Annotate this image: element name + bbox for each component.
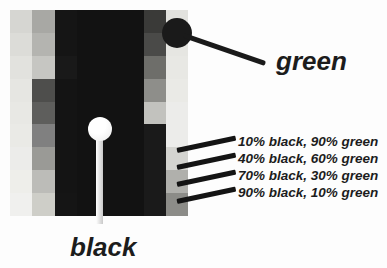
pixel-cell xyxy=(10,56,32,79)
mix-label-1: 10% black, 90% green xyxy=(238,134,378,149)
pixel-cell xyxy=(121,124,143,147)
pixel-cell xyxy=(32,33,54,56)
pixel-cell xyxy=(121,170,143,193)
pixel-cell xyxy=(77,33,99,56)
pixel-cell xyxy=(121,10,143,33)
pixel-cell xyxy=(121,56,143,79)
pixel-cell xyxy=(32,102,54,125)
pixel-cell xyxy=(55,102,77,125)
pixel-cell xyxy=(99,33,121,56)
pixel-cell xyxy=(55,193,77,216)
pixel-cell xyxy=(121,33,143,56)
pixel-cell xyxy=(166,79,188,102)
pixel-cell xyxy=(121,147,143,170)
green-callout-dot-icon xyxy=(162,18,192,48)
pixel-cell xyxy=(10,10,32,33)
pixel-cell xyxy=(55,170,77,193)
pixel-cell xyxy=(166,56,188,79)
pixel-cell xyxy=(55,33,77,56)
figure-canvas: green black 10% black, 90% green 40% bla… xyxy=(0,0,387,268)
pixel-cell xyxy=(32,10,54,33)
pixel-cell xyxy=(10,124,32,147)
pixel-cell xyxy=(55,10,77,33)
mix-label-4: 90% black, 10% green xyxy=(238,185,378,200)
pixel-cell xyxy=(10,147,32,170)
pixel-cell xyxy=(55,79,77,102)
pixel-cell xyxy=(77,56,99,79)
pixel-cell xyxy=(55,56,77,79)
pixel-cell xyxy=(32,170,54,193)
pixel-cell xyxy=(10,170,32,193)
pixel-cell xyxy=(166,124,188,147)
pixel-cell xyxy=(144,79,166,102)
pixel-cell xyxy=(121,193,143,216)
pixel-cell xyxy=(32,56,54,79)
pixel-cell xyxy=(99,10,121,33)
pixel-cell xyxy=(99,79,121,102)
pixel-cell xyxy=(32,193,54,216)
pixel-cell xyxy=(10,193,32,216)
pixel-cell xyxy=(10,33,32,56)
pixel-cell xyxy=(32,147,54,170)
pixel-cell xyxy=(77,79,99,102)
pixel-cell xyxy=(10,79,32,102)
green-label: green xyxy=(276,46,347,77)
pixel-cell xyxy=(144,170,166,193)
black-callout-stem xyxy=(96,128,103,224)
pixel-cell xyxy=(55,124,77,147)
pixel-cell xyxy=(144,56,166,79)
pixel-cell xyxy=(144,193,166,216)
pixel-cell xyxy=(121,102,143,125)
green-callout-leader-line xyxy=(183,33,266,66)
mix-label-2: 40% black, 60% green xyxy=(238,151,378,166)
pixel-cell xyxy=(32,124,54,147)
black-label: black xyxy=(70,232,137,263)
pixel-cell xyxy=(144,102,166,125)
pixel-cell xyxy=(10,102,32,125)
black-callout-dot-icon xyxy=(88,117,112,141)
pixel-cell xyxy=(55,147,77,170)
pixel-cell xyxy=(166,102,188,125)
pixel-cell xyxy=(121,79,143,102)
pixel-cell xyxy=(77,10,99,33)
pixel-cell xyxy=(99,56,121,79)
pixel-cell xyxy=(144,147,166,170)
pixel-cell xyxy=(144,124,166,147)
mix-label-3: 70% black, 30% green xyxy=(238,168,378,183)
pixel-cell xyxy=(32,79,54,102)
